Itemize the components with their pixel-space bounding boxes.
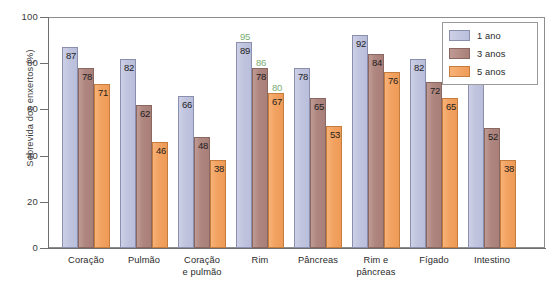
bar[interactable]: 78 bbox=[78, 68, 94, 248]
bar-value-label: 38 bbox=[211, 164, 227, 174]
bar-value-label: 87 bbox=[63, 51, 79, 61]
bar[interactable]: 52 bbox=[484, 128, 500, 248]
bar[interactable]: 77 bbox=[468, 70, 484, 248]
bar[interactable]: 8995 bbox=[236, 42, 252, 248]
bar-value-label: 62 bbox=[137, 109, 153, 119]
bar[interactable]: 38 bbox=[210, 160, 226, 248]
legend-swatch-icon-1-ano bbox=[449, 30, 470, 41]
bar-value-ghost-label: 86 bbox=[253, 58, 269, 68]
legend-item-5-anos[interactable]: 5 anos bbox=[449, 64, 531, 79]
bar-value-ghost-label: 95 bbox=[237, 32, 253, 42]
bar[interactable]: 48 bbox=[194, 137, 210, 248]
bar[interactable]: 7886 bbox=[252, 68, 268, 248]
bar-value-label: 67 bbox=[269, 97, 285, 107]
bar-value-label: 78 bbox=[79, 72, 95, 82]
bar-group: 928476 bbox=[352, 17, 400, 248]
bar[interactable]: 82 bbox=[120, 59, 136, 248]
bar-group: 877871 bbox=[62, 17, 110, 248]
bar-value-label: 66 bbox=[179, 100, 195, 110]
bar-value-label: 65 bbox=[443, 102, 459, 112]
bar-value-label: 78 bbox=[295, 72, 311, 82]
bar-group: 826246 bbox=[120, 17, 168, 248]
x-axis-label-line: pâncreas bbox=[326, 267, 426, 279]
bar[interactable]: 72 bbox=[426, 82, 442, 248]
bar[interactable]: 38 bbox=[500, 160, 516, 248]
bar[interactable]: 46 bbox=[152, 142, 168, 248]
x-axis-label-line: Intestino bbox=[442, 255, 542, 267]
bar-value-label: 46 bbox=[153, 146, 169, 156]
legend-swatch-icon-3-anos bbox=[449, 48, 470, 59]
legend-label-5-anos: 5 anos bbox=[477, 67, 506, 77]
bar-value-label: 78 bbox=[253, 72, 269, 82]
bar-value-label: 89 bbox=[237, 46, 253, 56]
x-axis-label: Intestino bbox=[442, 255, 542, 267]
bar-value-label: 84 bbox=[369, 58, 385, 68]
legend-label-3-anos: 3 anos bbox=[477, 49, 506, 59]
bar-chart: 020406080100 Sobrevida dos enxertos (%) … bbox=[0, 0, 557, 296]
legend-item-1-ano[interactable]: 1 ano bbox=[449, 28, 531, 43]
bar-group: 664838 bbox=[178, 17, 226, 248]
bar[interactable]: 65 bbox=[442, 98, 458, 248]
bar-value-label: 92 bbox=[353, 39, 369, 49]
bar[interactable]: 53 bbox=[326, 126, 342, 248]
bar-group: 899578866780 bbox=[236, 17, 284, 248]
bar-value-label: 38 bbox=[501, 164, 517, 174]
legend-label-1-ano: 1 ano bbox=[477, 31, 501, 41]
bar[interactable]: 71 bbox=[94, 84, 110, 248]
bar[interactable]: 6780 bbox=[268, 93, 284, 248]
bar[interactable]: 82 bbox=[410, 59, 426, 248]
bar-value-ghost-label: 80 bbox=[269, 83, 285, 93]
legend: 1 ano 3 anos 5 anos bbox=[442, 22, 538, 85]
bar-value-label: 82 bbox=[121, 63, 137, 73]
bar-value-label: 48 bbox=[195, 141, 211, 151]
bar[interactable]: 87 bbox=[62, 47, 78, 248]
bar[interactable]: 65 bbox=[310, 98, 326, 248]
bar[interactable]: 76 bbox=[384, 72, 400, 248]
bar-value-label: 53 bbox=[327, 130, 343, 140]
bar[interactable]: 78 bbox=[294, 68, 310, 248]
bar-value-label: 82 bbox=[411, 63, 427, 73]
bar-group: 786553 bbox=[294, 17, 342, 248]
legend-item-3-anos[interactable]: 3 anos bbox=[449, 46, 531, 61]
x-axis-label-line: e pulmão bbox=[152, 267, 252, 279]
legend-swatch-icon-5-anos bbox=[449, 66, 470, 77]
bar-value-label: 52 bbox=[485, 132, 501, 142]
bar-value-label: 76 bbox=[385, 76, 401, 86]
bar-value-label: 72 bbox=[427, 86, 443, 96]
bar[interactable]: 66 bbox=[178, 96, 194, 248]
bar[interactable]: 92 bbox=[352, 35, 368, 248]
bar-value-label: 71 bbox=[95, 88, 111, 98]
bar[interactable]: 84 bbox=[368, 54, 384, 248]
bar-value-label: 65 bbox=[311, 102, 327, 112]
bar[interactable]: 62 bbox=[136, 105, 152, 248]
